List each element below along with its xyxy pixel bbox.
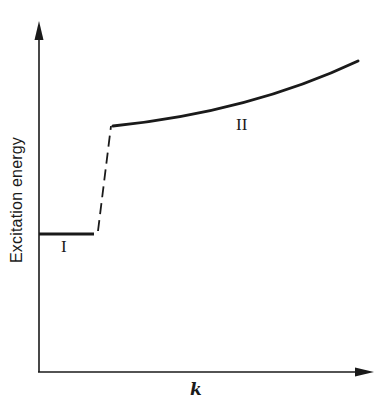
dashed-transition-line — [98, 126, 111, 231]
y-axis-label-container: Excitation energy — [2, 0, 32, 414]
excitation-energy-diagram: Excitation energy k I II — [0, 0, 390, 414]
diagram-canvas — [0, 0, 390, 414]
x-axis-arrow-icon — [355, 368, 374, 377]
x-axis-label: k — [190, 379, 202, 399]
y-axis-label: Excitation energy — [8, 137, 26, 263]
region-I-label: I — [61, 237, 67, 257]
y-axis-arrow-icon — [35, 21, 44, 40]
region-II-label: II — [236, 115, 247, 135]
